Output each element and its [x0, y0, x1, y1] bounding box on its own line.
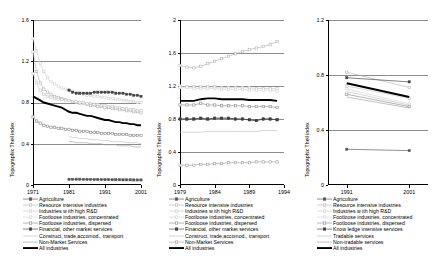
series-footloose-industries-dispersed — [32, 116, 142, 137]
legend-item-all-industries[interactable]: All industries — [316, 245, 412, 251]
data-point-marker — [97, 131, 99, 133]
series-all-industries — [180, 98, 277, 100]
data-point-marker — [186, 118, 188, 120]
legend-item-all-industries[interactable]: All industries — [168, 245, 269, 251]
legend: AgricultureResource intensive industries… — [168, 196, 269, 251]
data-point-marker — [227, 105, 229, 107]
data-point-marker — [179, 64, 181, 66]
data-point-marker — [186, 164, 188, 166]
series-industries-w-ith-high-r-d — [346, 85, 411, 100]
data-point-marker — [125, 93, 127, 95]
data-point-marker — [82, 101, 84, 103]
data-point-marker — [214, 104, 216, 106]
data-point-marker — [93, 131, 95, 133]
data-point-marker — [269, 118, 271, 120]
data-point-marker — [68, 89, 70, 91]
data-point-marker — [35, 70, 37, 72]
data-point-marker — [133, 179, 135, 181]
data-point-marker — [97, 178, 99, 180]
data-point-marker — [75, 129, 77, 131]
data-point-marker — [220, 105, 222, 107]
data-point-marker — [200, 65, 202, 67]
legend-label: All industries — [333, 245, 362, 251]
data-point-marker — [79, 178, 81, 180]
data-point-marker — [136, 134, 138, 136]
data-point-marker — [64, 88, 66, 90]
data-point-marker — [179, 87, 181, 89]
legend-swatch-icon — [22, 245, 39, 251]
data-point-marker — [57, 85, 59, 87]
data-point-marker — [104, 132, 106, 134]
data-point-marker — [89, 178, 91, 180]
data-point-marker — [125, 179, 127, 181]
data-point-marker — [71, 100, 73, 102]
data-point-marker — [129, 100, 131, 102]
data-point-marker — [241, 105, 243, 107]
data-point-marker — [68, 178, 70, 180]
data-point-marker — [89, 102, 91, 104]
series-line — [347, 78, 410, 82]
data-point-marker — [86, 130, 88, 132]
legend-label: All industries — [185, 245, 214, 251]
data-point-marker — [408, 149, 410, 151]
data-point-marker — [269, 161, 271, 163]
data-point-marker — [35, 50, 37, 52]
data-point-marker — [241, 118, 243, 120]
data-point-marker — [93, 103, 95, 105]
data-point-marker — [133, 100, 135, 102]
data-point-marker — [408, 86, 410, 88]
data-point-marker — [57, 98, 59, 100]
data-point-marker — [214, 162, 216, 164]
data-point-marker — [122, 92, 124, 94]
data-point-marker — [255, 120, 257, 122]
data-point-marker — [262, 118, 264, 120]
data-point-marker — [193, 118, 195, 120]
data-point-marker — [220, 117, 222, 119]
data-point-marker — [262, 161, 264, 163]
data-point-marker — [133, 109, 135, 111]
data-point-marker — [129, 179, 131, 181]
data-point-marker — [140, 179, 142, 181]
data-point-marker — [125, 99, 127, 101]
data-point-marker — [71, 91, 73, 93]
data-point-marker — [32, 116, 34, 118]
data-point-marker — [276, 161, 278, 163]
data-point-marker — [46, 77, 48, 79]
data-point-marker — [46, 91, 48, 93]
data-point-marker — [214, 117, 216, 119]
data-point-marker — [118, 133, 120, 135]
legend-item-all-industries[interactable]: All industries — [22, 245, 123, 251]
data-point-marker — [248, 89, 250, 91]
data-point-marker — [276, 90, 278, 92]
data-point-marker — [255, 105, 257, 107]
data-point-marker — [227, 55, 229, 57]
data-point-marker — [276, 87, 278, 89]
data-point-marker — [220, 88, 222, 90]
data-point-marker — [346, 71, 348, 73]
data-point-marker — [207, 63, 209, 65]
data-point-marker — [408, 81, 410, 83]
data-point-marker — [111, 132, 113, 134]
data-point-marker — [39, 82, 41, 84]
data-point-marker — [346, 93, 348, 95]
data-point-marker — [68, 128, 70, 130]
series-line — [180, 131, 277, 133]
data-point-marker — [255, 47, 257, 49]
series-resource-intensive-industries — [179, 40, 278, 69]
data-point-marker — [179, 118, 181, 120]
data-point-marker — [269, 105, 271, 107]
data-point-marker — [100, 104, 102, 106]
data-point-marker — [100, 132, 102, 134]
data-point-marker — [111, 91, 113, 93]
data-point-marker — [207, 118, 209, 120]
data-point-marker — [97, 95, 99, 97]
data-point-marker — [104, 178, 106, 180]
data-point-marker — [39, 89, 41, 91]
legend-swatch-icon — [168, 245, 185, 251]
data-point-marker — [234, 162, 236, 164]
data-point-marker — [82, 178, 84, 180]
data-point-marker — [107, 132, 109, 134]
data-point-marker — [104, 96, 106, 98]
data-point-marker — [86, 178, 88, 180]
data-point-marker — [200, 102, 202, 104]
